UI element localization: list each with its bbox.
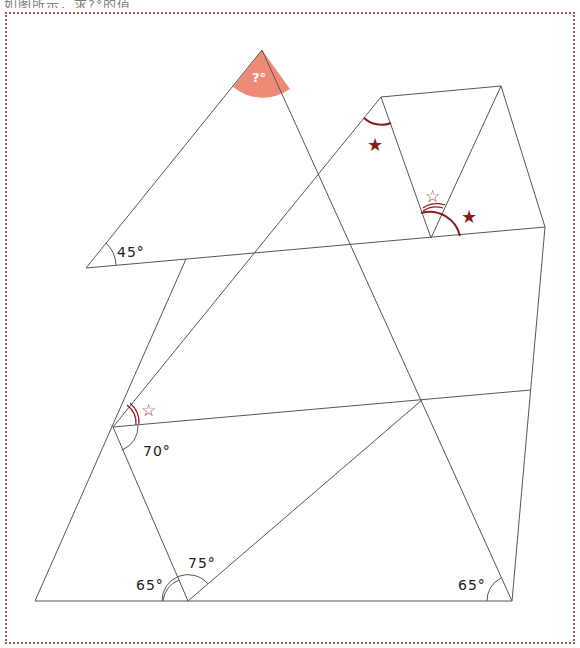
geometry-figure: ?° (0, 0, 580, 648)
angle-label-70: 70° (143, 443, 171, 459)
angle-label-75: 75° (188, 555, 216, 571)
angle-label-45: 45° (117, 244, 145, 260)
filled-star-marker: ★ (367, 134, 383, 155)
hollow-star-marker: ☆ (141, 400, 156, 420)
hollow-star-marker: ☆ (425, 186, 440, 206)
angle-label-65-right: 65° (458, 577, 486, 593)
angle-label-65-left: 65° (136, 577, 164, 593)
marker-arcs (127, 118, 460, 425)
filled-star-marker: ★ (461, 206, 477, 227)
unknown-angle-label: ?° (252, 70, 266, 85)
figure-lines (35, 50, 545, 601)
